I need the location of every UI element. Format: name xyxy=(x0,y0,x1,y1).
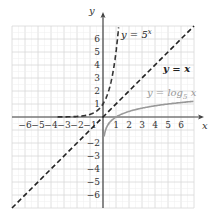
y-axis-label: y xyxy=(88,5,95,16)
label-log: y = log5 x xyxy=(146,87,197,101)
y-tick-label: 5 xyxy=(94,47,100,57)
x-tick-label: −4 xyxy=(44,120,58,130)
y-tick-label: 6 xyxy=(94,34,100,44)
y-tick-label: −6 xyxy=(87,190,101,200)
x-tick-label: −6 xyxy=(18,120,32,130)
label-identity: y = x xyxy=(162,63,191,74)
x-tick-label: 6 xyxy=(178,120,184,130)
y-tick-label: 4 xyxy=(94,60,100,70)
curve-logarithm xyxy=(104,101,193,136)
x-tick-label: −2 xyxy=(70,120,83,130)
x-tick-label: −5 xyxy=(31,120,45,130)
y-tick-label: 3 xyxy=(94,73,100,83)
y-tick-label: −2 xyxy=(87,138,100,148)
function-graph: −6−5−4−3−2−1123456123456−2−3−4−5−6 y = 5… xyxy=(0,0,220,223)
y-tick-label: −4 xyxy=(87,164,101,174)
x-tick-label: −1 xyxy=(83,120,96,130)
label-exp: y = 5x xyxy=(120,28,152,40)
x-tick-label: 4 xyxy=(152,120,158,130)
x-tick-label: 1 xyxy=(113,120,119,130)
y-tick-label: −3 xyxy=(87,151,101,161)
x-tick-label: −3 xyxy=(57,120,71,130)
y-tick-label: −5 xyxy=(87,177,101,187)
x-axis-label: x xyxy=(202,120,208,131)
x-tick-label: 3 xyxy=(139,120,145,130)
y-tick-label: 1 xyxy=(94,99,100,109)
x-tick-label: 2 xyxy=(126,120,132,130)
x-tick-label: 5 xyxy=(165,120,171,130)
y-tick-label: 2 xyxy=(94,86,100,96)
